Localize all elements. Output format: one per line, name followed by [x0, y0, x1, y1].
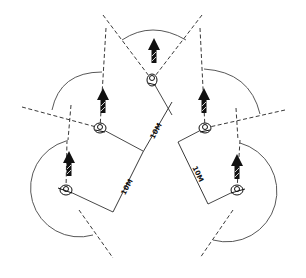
- direction-of-movement-arrow-icon: [63, 151, 75, 176]
- dimension-left-lower: 10M: [113, 152, 143, 212]
- sector-left-1: [22, 28, 106, 140]
- sector-right-1: [200, 28, 285, 140]
- soldier-icon: [147, 74, 157, 86]
- soldier-icon: [199, 123, 211, 133]
- dimension-label: 10M: [149, 122, 164, 141]
- direction-of-movement-arrow-icon: [198, 88, 210, 113]
- direction-of-movement-arrow-icon: [97, 88, 109, 113]
- soldier-icon: [94, 123, 106, 133]
- spacing-lines: [66, 80, 237, 212]
- dimension-right: 10M: [178, 142, 208, 204]
- dimension-label: 10M: [120, 178, 135, 197]
- wedge-formation-diagram: 10M 10M 10M: [0, 0, 306, 278]
- soldier-icon: [231, 185, 245, 195]
- dimension-label: 10M: [191, 165, 206, 184]
- direction-of-movement-arrow-icon: [231, 154, 243, 179]
- soldier-icon: [58, 185, 72, 195]
- dimension-left-upper: 10M: [143, 102, 172, 152]
- direction-of-movement-arrow-icon: [148, 38, 160, 63]
